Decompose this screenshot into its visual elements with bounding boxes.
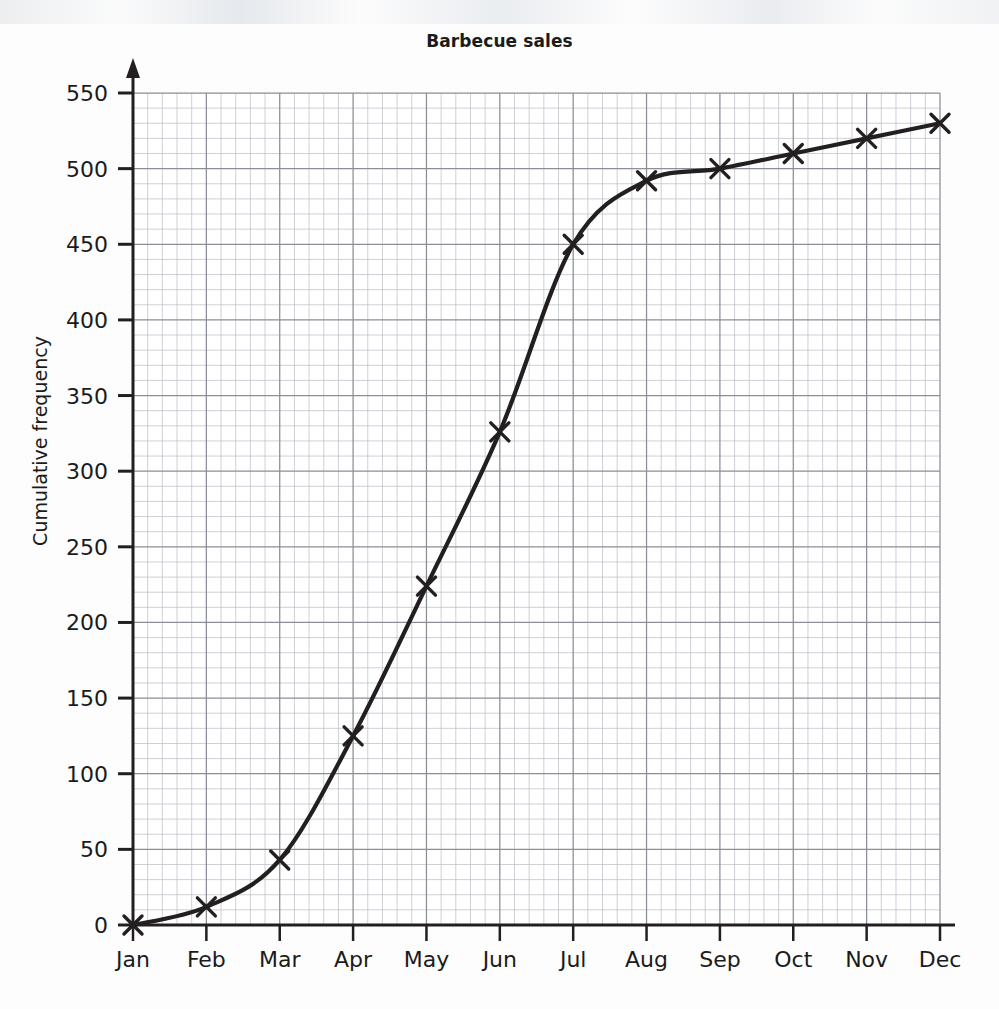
plot-background bbox=[133, 93, 940, 925]
y-tick-label: 100 bbox=[66, 762, 108, 787]
x-tick-label: Apr bbox=[334, 947, 373, 972]
y-tick-label: 500 bbox=[66, 157, 108, 182]
y-tick-label: 150 bbox=[66, 686, 108, 711]
x-tick-label: Feb bbox=[187, 947, 226, 972]
y-tick-label: 350 bbox=[66, 384, 108, 409]
cumulative-frequency-line-chart: 050100150200250300350400450500550 JanFeb… bbox=[0, 0, 999, 1009]
x-tick-label: Sep bbox=[699, 947, 740, 972]
y-tick-label: 50 bbox=[80, 837, 108, 862]
x-tick-label: Jun bbox=[481, 947, 517, 972]
x-axis-tick-labels: JanFebMarAprMayJunJulAugSepOctNovDec bbox=[114, 947, 961, 972]
y-tick-label: 200 bbox=[66, 610, 108, 635]
x-tick-label: Mar bbox=[259, 947, 301, 972]
x-tick-label: Jul bbox=[558, 947, 587, 972]
y-axis-tick-labels: 050100150200250300350400450500550 bbox=[66, 81, 108, 938]
y-tick-label: 300 bbox=[66, 459, 108, 484]
x-tick-label: Nov bbox=[845, 947, 888, 972]
x-tick-label: Jan bbox=[114, 947, 150, 972]
x-axis-ticks bbox=[133, 925, 940, 941]
y-axis-arrow-icon bbox=[126, 58, 140, 78]
y-tick-label: 550 bbox=[66, 81, 108, 106]
y-tick-label: 250 bbox=[66, 535, 108, 560]
x-tick-label: Aug bbox=[625, 947, 668, 972]
y-tick-label: 400 bbox=[66, 308, 108, 333]
y-tick-label: 0 bbox=[94, 913, 108, 938]
x-tick-label: Oct bbox=[774, 947, 812, 972]
chart-page: Barbecue sales Cumulative frequency 0501… bbox=[0, 0, 999, 1009]
y-tick-label: 450 bbox=[66, 232, 108, 257]
y-axis-ticks bbox=[118, 93, 133, 925]
x-tick-label: May bbox=[404, 947, 449, 972]
x-tick-label: Dec bbox=[919, 947, 962, 972]
